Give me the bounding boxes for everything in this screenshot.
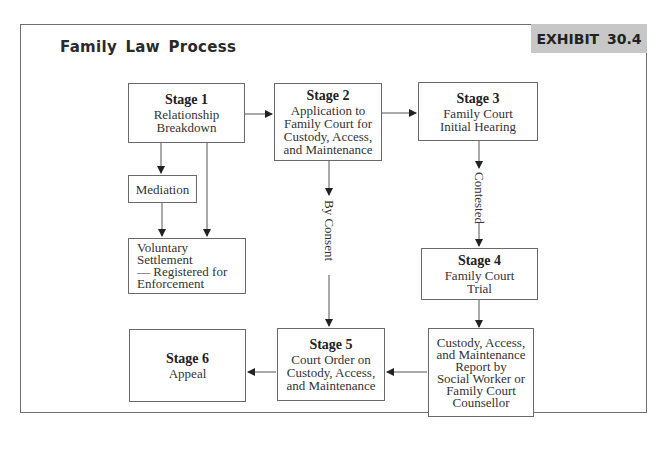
mediation-desc: Mediation — [136, 183, 189, 196]
node-voluntary-settlement: Voluntary Settlement — Registered for En… — [128, 238, 246, 294]
stage4-title: Stage 4 — [458, 253, 501, 269]
stage2-desc: Application to Family Court for Custody,… — [283, 104, 372, 156]
stage1-title: Stage 1 — [165, 92, 208, 108]
voluntary-desc: Voluntary Settlement — Registered for En… — [137, 242, 245, 290]
report-desc: Custody, Access, and Maintenance Report … — [436, 337, 525, 409]
stage2-title: Stage 2 — [306, 88, 349, 104]
node-stage6: Stage 6 Appeal — [129, 329, 246, 402]
node-stage2: Stage 2 Application to Family Court for … — [274, 83, 382, 161]
stage5-desc: Court Order on Custody, Access, and Main… — [286, 353, 375, 392]
node-stage3: Stage 3 Family Court Initial Hearing — [418, 82, 538, 141]
node-mediation: Mediation — [128, 175, 197, 203]
node-stage1: Stage 1 Relationship Breakdown — [128, 83, 245, 143]
by-consent-label: By Consent — [321, 200, 337, 261]
stage4-desc: Family Court Trial — [445, 269, 515, 295]
stage3-desc: Family Court Initial Hearing — [440, 107, 516, 133]
stage5-title: Stage 5 — [309, 337, 352, 353]
contested-label: Contested — [471, 172, 487, 224]
stage1-desc: Relationship Breakdown — [154, 108, 220, 134]
node-report: Custody, Access, and Maintenance Report … — [428, 328, 534, 417]
stage3-title: Stage 3 — [456, 91, 499, 107]
stage6-title: Stage 6 — [166, 351, 209, 367]
stage6-desc: Appeal — [169, 367, 207, 380]
node-stage4: Stage 4 Family Court Trial — [421, 248, 538, 300]
node-stage5: Stage 5 Court Order on Custody, Access, … — [277, 328, 385, 401]
